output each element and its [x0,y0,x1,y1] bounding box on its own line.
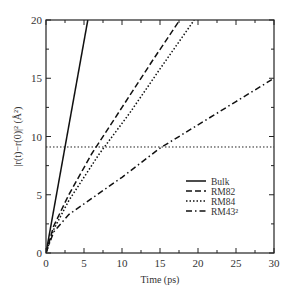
svg-text:25: 25 [231,257,243,269]
svg-text:0: 0 [37,247,43,259]
chart: 05101520253005101520Time (ps)|r(t)−r(0)|… [0,0,292,296]
svg-text:20: 20 [31,14,43,26]
svg-text:10: 10 [31,131,43,143]
svg-text:5: 5 [37,189,43,201]
series-RM84 [46,20,194,253]
plot-svg: 05101520253005101520Time (ps)|r(t)−r(0)|… [0,0,292,296]
legend-item: Bulk [211,177,230,187]
svg-text:10: 10 [117,257,129,269]
legend-item: RM84 [211,197,236,207]
svg-text:30: 30 [269,257,281,269]
svg-text:5: 5 [81,257,87,269]
y-axis-label: |r(t)−r(0)|² (Å²) [12,107,24,167]
svg-text:15: 15 [155,257,167,269]
series-Bulk [46,20,88,253]
svg-text:0: 0 [43,257,49,269]
svg-text:20: 20 [193,257,205,269]
axes-frame [46,20,274,253]
series-RM43² [46,78,274,253]
legend-item: RM43² [211,207,238,217]
svg-text:15: 15 [31,72,43,84]
legend-item: RM82 [211,187,236,197]
x-axis-label: Time (ps) [141,274,180,286]
